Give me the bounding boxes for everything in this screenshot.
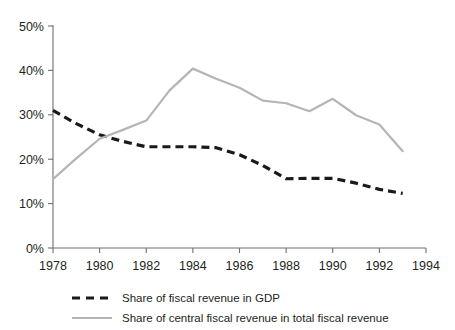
series-line-0 (53, 110, 403, 193)
x-tick-label: 1988 (272, 259, 300, 273)
legend-label-1: Share of central fiscal revenue in total… (122, 312, 389, 324)
y-tick-label: 40% (19, 64, 44, 78)
series-lines (53, 69, 403, 194)
x-tick-label: 1994 (412, 259, 440, 273)
series-line-1 (53, 69, 403, 180)
y-tick-label: 10% (19, 197, 44, 211)
y-tick-label: 20% (19, 153, 44, 167)
x-tick-label: 1992 (365, 259, 393, 273)
legend-label-0: Share of fiscal revenue in GDP (122, 292, 280, 304)
line-chart: 0%10%20%30%40%50% 1978198019821984198619… (0, 0, 455, 330)
y-tick-label: 30% (19, 108, 44, 122)
x-tick-label: 1986 (226, 259, 254, 273)
chart-container: 0%10%20%30%40%50% 1978198019821984198619… (0, 0, 455, 330)
y-tick-label: 0% (26, 242, 44, 256)
x-tick-label: 1984 (179, 259, 207, 273)
x-tick-label: 1980 (86, 259, 114, 273)
x-tick-label: 1982 (132, 259, 160, 273)
x-tick-label: 1990 (319, 259, 347, 273)
y-axis-ticks: 0%10%20%30%40%50% (19, 20, 53, 256)
y-tick-label: 50% (19, 20, 44, 34)
x-axis-ticks: 197819801982198419861988199019921994 (39, 248, 440, 273)
x-tick-label: 1978 (39, 259, 67, 273)
chart-legend: Share of fiscal revenue in GDPShare of c… (72, 292, 389, 324)
